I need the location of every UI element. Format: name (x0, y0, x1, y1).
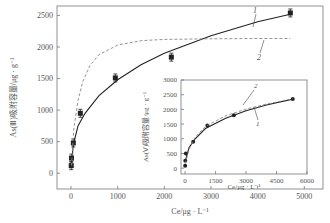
x-tick-label: 0 (69, 192, 73, 201)
y-tick-label: 500 (167, 150, 178, 158)
y-tick-label: 0 (174, 165, 178, 173)
y-tick-label: 3000 (163, 76, 178, 84)
x-tick-label: 1000 (110, 192, 126, 201)
x-tick-label: 2000 (156, 192, 172, 201)
y-tick-label: 1000 (37, 106, 53, 115)
x-tick-label: 4000 (250, 192, 266, 201)
y-tick-label: 2500 (163, 91, 178, 99)
x-axis-label: Ce/μg · L⁻¹ (227, 183, 260, 191)
y-tick-label: 2000 (37, 43, 53, 52)
y-tick-label: 1500 (37, 74, 53, 83)
y-axis-label: As(Ⅲ)吸附容量/μg · g⁻¹ (8, 57, 18, 137)
y-tick-label: 500 (41, 137, 53, 146)
x-tick-label: 6000 (300, 177, 315, 185)
curve-label-1: 1 (253, 6, 257, 15)
plot-frame (181, 80, 307, 174)
x-tick-label: 4500 (270, 177, 285, 185)
x-tick-label: 0 (183, 177, 187, 185)
data-point (78, 111, 83, 116)
x-tick-label: 5000 (296, 192, 312, 201)
y-tick-label: 0 (49, 169, 53, 178)
data-point (183, 164, 187, 168)
y-tick-label: 2000 (163, 106, 178, 114)
y-axis-label: As(Ⅴ)吸附容量/μg · g⁻¹ (141, 92, 150, 162)
x-axis-label: Ce/μg · L⁻¹ (171, 207, 209, 216)
y-tick-label: 1000 (163, 135, 178, 143)
adsorption-chart: 0500100015002000250001000200030004000500… (0, 0, 330, 223)
y-tick-label: 1500 (163, 121, 178, 129)
curve-label-2: 2 (254, 82, 258, 90)
y-tick-label: 2500 (37, 11, 53, 20)
x-tick-label: 1500 (209, 177, 224, 185)
curve-label-1: 1 (256, 120, 260, 128)
data-point (169, 55, 174, 60)
curve-label-2: 2 (257, 53, 261, 62)
x-tick-label: 3000 (203, 192, 219, 201)
